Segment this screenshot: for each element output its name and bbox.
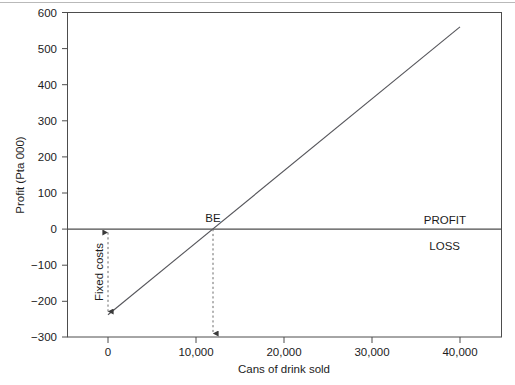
y-tick-label-500: 500 [38, 43, 57, 55]
y-tick-label-0: 0 [51, 223, 57, 235]
loss-region-label: LOSS [429, 240, 460, 252]
y-tick-label-neg300: −300 [31, 331, 57, 343]
x-axis-title: Cans of drink sold [238, 363, 330, 375]
chart-screenshot: 600 500 400 300 200 100 0 −100 −200 −300… [0, 0, 515, 385]
x-axis-tick-labels: 0 10,000 20,000 30,000 40,000 [105, 346, 478, 358]
x-tick-label-40000: 40,000 [442, 346, 477, 358]
y-tick-label-400: 400 [38, 79, 57, 91]
y-axis-title: Profit (Pta 000) [14, 136, 26, 214]
profit-region-label: PROFIT [424, 214, 466, 226]
x-tick-label-10000: 10,000 [178, 346, 213, 358]
y-tick-label-200: 200 [38, 151, 57, 163]
x-tick-label-30000: 30,000 [354, 346, 389, 358]
fixed-costs-label: Fixed costs [93, 243, 105, 301]
break-even-label: BE [205, 212, 221, 224]
x-tick-label-20000: 20,000 [266, 346, 301, 358]
plot-frame [68, 13, 502, 338]
break-even-chart: 600 500 400 300 200 100 0 −100 −200 −300… [0, 0, 515, 385]
y-axis-ticks [62, 13, 68, 338]
y-tick-label-100: 100 [38, 187, 57, 199]
profit-line-series [108, 27, 460, 315]
y-tick-label-600: 600 [38, 7, 57, 19]
y-tick-label-neg100: −100 [31, 259, 57, 271]
y-tick-label-neg200: −200 [31, 295, 57, 307]
x-axis-ticks [108, 337, 460, 343]
x-tick-label-0: 0 [105, 346, 111, 358]
y-axis-tick-labels: 600 500 400 300 200 100 0 −100 −200 −300 [31, 7, 57, 344]
y-tick-label-300: 300 [38, 115, 57, 127]
